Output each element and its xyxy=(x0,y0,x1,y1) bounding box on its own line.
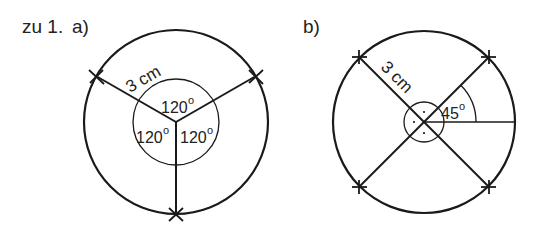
angle-label-left: 120 xyxy=(136,129,163,146)
angle-label-right: 120 xyxy=(180,129,207,146)
angle-label-45: 45 xyxy=(441,105,459,122)
construction-figure: zu 1. a) b) 3 cm 120 o 120 o 120 o xyxy=(0,0,543,225)
degree-symbol-top: o xyxy=(188,94,194,106)
exercise-heading: zu 1. xyxy=(22,16,63,37)
part-b-label: b) xyxy=(303,16,320,37)
radius-label-a: 3 cm xyxy=(123,62,164,97)
part-b-diagram xyxy=(333,31,515,213)
radius-label-b: 3 cm xyxy=(377,57,416,96)
part-a-label: a) xyxy=(72,16,89,37)
degree-symbol-left: o xyxy=(163,124,169,136)
angle-label-top: 120 xyxy=(161,99,188,116)
degree-symbol-right: o xyxy=(207,124,213,136)
degree-symbol-45: o xyxy=(459,100,465,112)
part-a-diagram xyxy=(84,30,268,221)
